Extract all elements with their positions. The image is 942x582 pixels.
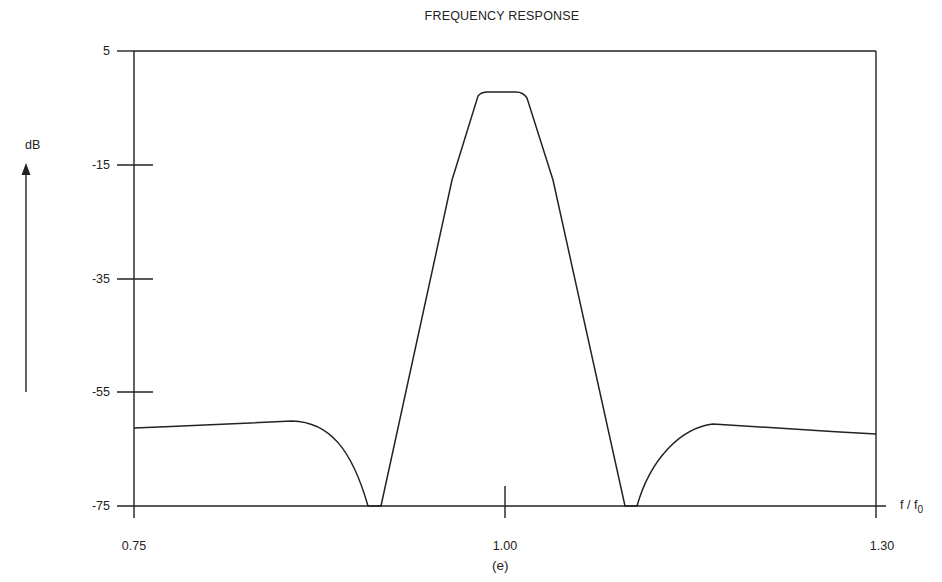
figure-caption: (e)	[492, 558, 509, 573]
chart-plot	[0, 0, 942, 582]
y-tick-neg55: -55	[70, 385, 110, 399]
y-tick-5: 5	[70, 44, 110, 58]
y-tick-neg15: -15	[70, 158, 110, 172]
x-tick-1.00: 1.00	[475, 539, 535, 553]
y-tick-neg35: -35	[70, 272, 110, 286]
xlabel-main: f / f	[900, 498, 917, 512]
x-tick-1.30: 1.30	[852, 539, 912, 553]
xlabel: f / f0	[900, 498, 923, 515]
ylabel: dB	[25, 138, 40, 152]
x-tick-0.75: 0.75	[104, 539, 164, 553]
xlabel-subscript: 0	[917, 504, 923, 515]
response-curve	[134, 92, 876, 506]
y-tick-neg75: -75	[70, 499, 110, 513]
arrow-up-icon	[22, 163, 31, 175]
